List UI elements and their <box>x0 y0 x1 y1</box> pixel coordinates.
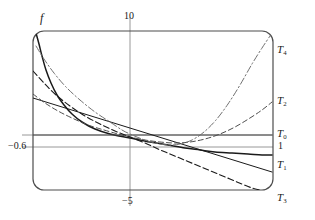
curve-label-t4: T4 <box>277 44 287 57</box>
curve-label-t3: T3 <box>277 192 287 205</box>
curve-label-t1: T1 <box>277 159 287 172</box>
tick-label-left-minus06: −0.6 <box>8 141 26 151</box>
curve-label-t0: T0 <box>277 128 287 141</box>
curve-label-t1-sub: 1 <box>283 164 286 171</box>
plot-canvas <box>0 0 315 220</box>
curve-t4 <box>36 33 272 145</box>
curve-label-t0-sub: 0 <box>283 133 286 140</box>
curve-t2 <box>33 94 272 143</box>
figure-container: f 10 −5 −0.6 T4 T2 T0 1 T1 T3 <box>0 0 315 220</box>
tick-label-bottom-minus5: −5 <box>122 196 133 206</box>
curves-group <box>33 33 272 190</box>
curve-f <box>36 33 272 155</box>
curve-label-f: f <box>40 12 43 24</box>
curve-t3 <box>33 71 260 190</box>
curve-label-t4-sub: 4 <box>283 49 286 56</box>
tick-label-top-10: 10 <box>124 11 134 21</box>
tick-label-right-one: 1 <box>278 141 283 151</box>
curve-label-t2-sub: 2 <box>283 100 286 107</box>
curve-label-t2: T2 <box>277 95 287 108</box>
curve-label-t3-sub: 3 <box>283 197 286 204</box>
